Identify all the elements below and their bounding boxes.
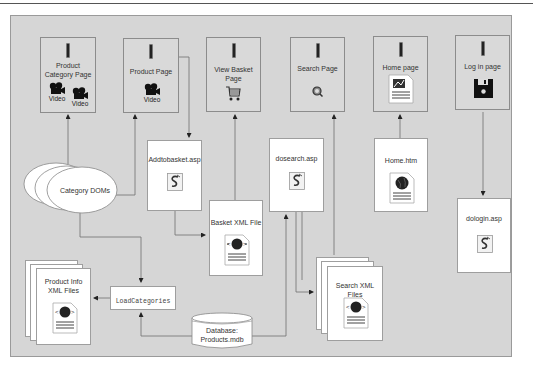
node-label: Home.htm (375, 156, 427, 165)
film-camera-icon (49, 82, 65, 95)
node-label: Basket XML File (210, 218, 262, 227)
xml-document-icon: <> (224, 234, 250, 266)
dologin-asp-node: dologin.asp (457, 198, 511, 273)
node-label: Home page (374, 63, 427, 72)
page-bar-icon (481, 41, 485, 56)
home-page-node: Home page (373, 36, 428, 112)
node-label: Log in page (456, 62, 509, 71)
magnifier-icon (312, 86, 323, 97)
home-htm-node: Home.htm (374, 138, 428, 212)
node-label: dologin.asp (458, 214, 510, 223)
floppy-disk-icon (474, 79, 493, 98)
node-label: Product (41, 61, 95, 70)
basket-xml-file-node: Basket XML File <> (209, 200, 263, 276)
search-xml-files-node: Search XML Files <> (327, 266, 383, 341)
svg-text:>: > (243, 241, 247, 247)
load-categories-label: LoadCategories (116, 298, 171, 305)
node-label: XML Files (37, 286, 90, 295)
view-basket-page-node: View Basket Page (206, 37, 261, 112)
addtobasket-asp-node: Addtobasket.asp (147, 140, 202, 211)
page-bar-icon (149, 44, 153, 59)
svg-text:>: > (362, 304, 366, 310)
node-label: dosearch.asp (270, 154, 323, 163)
node-label: Product Page (124, 67, 178, 76)
video-label: Video (144, 96, 161, 103)
xml-document-icon: <> (52, 302, 78, 334)
database-node: Database: Products.mdb (191, 326, 253, 344)
page-bar-icon (232, 43, 236, 58)
video-item: Video (45, 82, 69, 102)
node-label: Database: (191, 326, 253, 335)
node-label: Page (207, 74, 260, 83)
svg-text:<: < (346, 304, 350, 310)
video-item: Video (140, 83, 164, 103)
asp-script-icon (477, 235, 493, 253)
html-document-icon (388, 74, 414, 104)
page-bar-icon (66, 43, 70, 58)
product-category-page-node: Product Category Page Video Video (40, 37, 96, 113)
node-label: Product Info (37, 277, 90, 286)
product-page-node: Product Page Video (123, 38, 179, 113)
dosearch-asp-node: dosearch.asp (269, 138, 324, 212)
product-info-xml-node: Product Info XML Files <> (36, 268, 91, 345)
web-document-icon (389, 172, 415, 204)
page-bar-icon (316, 43, 320, 58)
node-label: Products.mdb (191, 335, 253, 344)
load-categories-node: LoadCategories (110, 286, 176, 310)
category-doms-label: Category DOMs (55, 186, 115, 195)
node-label: Search Page (291, 64, 344, 73)
video-label: Video (72, 100, 89, 107)
node-label: Category Page (41, 70, 95, 79)
svg-text:<: < (55, 309, 59, 315)
svg-text:>: > (71, 309, 75, 315)
film-camera-icon (72, 87, 88, 100)
node-label: Addtobasket.asp (148, 155, 201, 164)
page-bar-icon (399, 42, 403, 57)
shopping-cart-icon (225, 86, 241, 101)
asp-script-icon (167, 173, 183, 191)
xml-document-icon: <> (343, 297, 369, 329)
node-label: View Basket (207, 65, 260, 74)
search-page-node: Search Page (290, 37, 345, 112)
video-item: Video (68, 87, 92, 107)
login-page-node: Log in page (455, 35, 510, 110)
asp-script-icon (289, 172, 305, 190)
svg-text:<: < (227, 241, 231, 247)
video-label: Video (49, 95, 66, 102)
film-camera-icon (144, 83, 160, 96)
